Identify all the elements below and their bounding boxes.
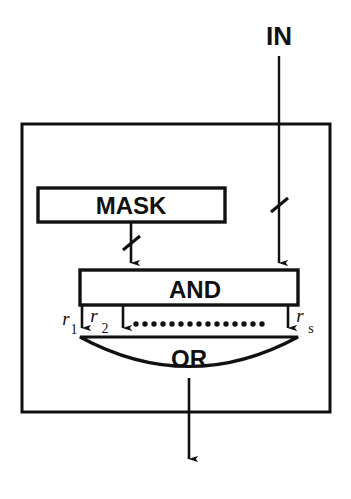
and-block-label: AND [169, 276, 221, 303]
rail-label-r1-subscript: 1 [71, 322, 78, 337]
rail-label-r1: r [62, 308, 70, 329]
block-diagram-svg: IN MASK AND OR r 1 r 2 r s [0, 0, 351, 499]
rail-label-r2-subscript: 2 [102, 321, 109, 336]
mask-block-label: MASK [96, 192, 167, 219]
rail-label-rs-subscript: s [308, 321, 313, 336]
rail-label-r2: r [90, 305, 98, 326]
ellipsis-dots-icon [133, 321, 264, 326]
input-label: IN [266, 21, 292, 51]
diagram-canvas: IN MASK AND OR r 1 r 2 r s [0, 0, 351, 499]
or-block-label: OR [171, 345, 207, 372]
rail-label-rs: r [296, 305, 304, 326]
